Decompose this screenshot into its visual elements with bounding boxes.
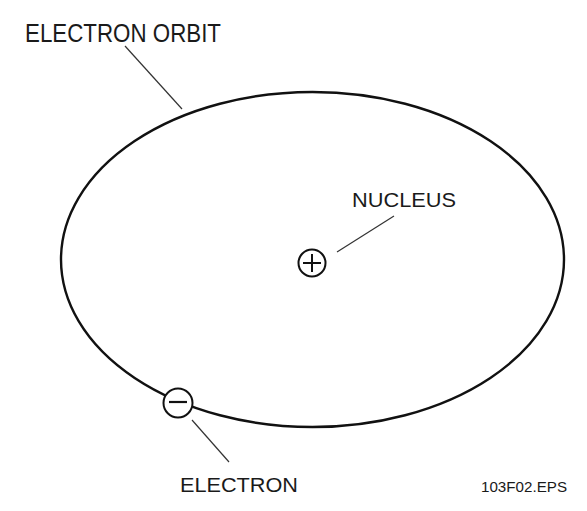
- atom-diagram: ELECTRON ORBIT NUCLEUS ELECTRON 103F02.E…: [0, 0, 587, 511]
- orbit-leader-line: [125, 46, 182, 109]
- electron-label: ELECTRON: [180, 473, 298, 496]
- nucleus-label: NUCLEUS: [352, 188, 456, 211]
- nucleus-leader-line: [337, 216, 394, 252]
- electron-leader-line: [192, 420, 229, 462]
- electron-icon: [164, 389, 193, 418]
- nucleus-icon: [299, 250, 326, 277]
- orbit-label: ELECTRON ORBIT: [25, 19, 221, 47]
- figure-id: 103F02.EPS: [481, 479, 567, 495]
